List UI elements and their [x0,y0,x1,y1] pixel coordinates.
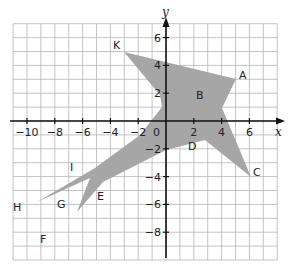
point-label-b: B [196,89,204,102]
y-tick-label: −2 [145,143,161,156]
y-tick-label: −8 [145,226,161,239]
x-tick-label: −4 [102,126,118,139]
point-label-c: C [253,166,261,179]
x-axis-arrow-icon [276,118,285,125]
origin-label: 0 [153,126,160,139]
y-axis-label: y [161,5,169,19]
point-label-e: E [97,190,104,203]
x-axis-label: x [275,125,282,139]
point-label-a: A [239,69,247,82]
point-label-i: I [70,161,73,174]
y-tick-label: −6 [145,198,161,211]
x-tick-label: −6 [74,126,90,139]
y-tick-label: −4 [145,171,161,184]
x-tick-label: −8 [47,126,63,139]
coordinate-grid-diagram: −10−8−6−4−2246642−2−4−6−8 x y 0 KABCDEFG… [0,0,291,270]
y-tick-label: 4 [154,59,161,72]
point-label-g: G [57,198,66,211]
x-tick-label: 4 [218,126,225,139]
x-tick-label: 2 [190,126,197,139]
point-label-f: F [40,233,46,246]
point-label-d: D [188,140,196,153]
point-label-k: K [113,39,121,52]
x-tick-label: −10 [15,126,38,139]
x-tick-label: 6 [246,126,253,139]
x-tick-label: −2 [130,126,146,139]
y-tick-label: 6 [154,32,161,45]
y-tick-label: 2 [154,87,161,100]
point-label-h: H [13,201,21,214]
